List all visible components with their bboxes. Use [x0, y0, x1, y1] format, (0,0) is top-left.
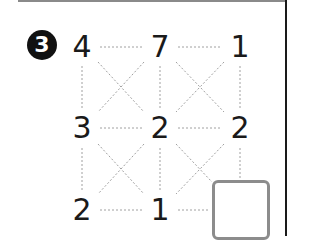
grid-cell-r2c3: 2 — [225, 113, 255, 143]
grid-cell-r3c1: 2 — [67, 195, 97, 225]
grid-cell-r1c2: 7 — [145, 32, 175, 62]
grid-cell-r2c1: 3 — [67, 113, 97, 143]
grid-cell-r2c2: 2 — [145, 113, 175, 143]
answer-box[interactable] — [212, 180, 270, 240]
grid-cell-r1c1: 4 — [67, 32, 97, 62]
grid-cell-r1c3: 1 — [225, 32, 255, 62]
grid-cell-r3c2: 1 — [145, 195, 175, 225]
